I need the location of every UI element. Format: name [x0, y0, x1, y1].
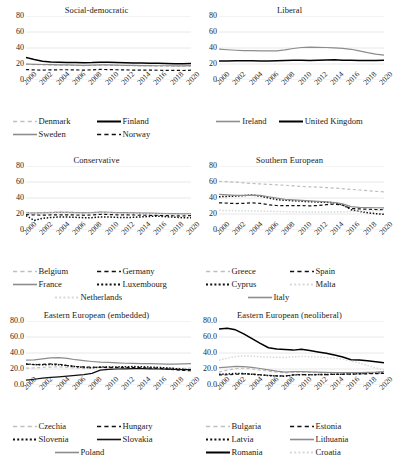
plot-wrap: 020406080 200020022004200620082010201220…: [0, 166, 193, 264]
series-line: [26, 58, 191, 64]
y-tick-label: 20: [16, 210, 24, 218]
legend-swatch-icon: [13, 422, 37, 431]
legend: IrelandUnited Kingdom: [206, 115, 374, 127]
y-tick-label: 60: [209, 28, 217, 36]
legend-label: Ireland: [242, 115, 266, 127]
panel-eastern-european-embedded: Eastern European (embedded) 0.020.040.06…: [0, 305, 193, 471]
legend-label: Croatia: [316, 446, 341, 458]
legend-label: Hungary: [123, 420, 153, 432]
legend-swatch-icon: [290, 267, 314, 276]
legend-swatch-icon: [13, 130, 37, 139]
panel-eastern-european-neoliberal: Eastern European (neoliberal) 0.020.040.…: [193, 305, 386, 471]
legend-item: Lithuania: [290, 433, 374, 445]
y-tick-label: 40: [209, 194, 217, 202]
legend-swatch-icon: [206, 435, 230, 444]
legend-label: Netherlands: [81, 291, 123, 303]
legend-item: Netherlands: [55, 291, 139, 303]
plot-area: [219, 321, 384, 385]
x-axis-labels: 2000200220042006200820102012201420162018…: [26, 230, 191, 264]
chart-svg: [26, 321, 191, 385]
legend-label: France: [39, 278, 62, 290]
x-axis-labels: 2000200220042006200820102012201420162018…: [219, 80, 384, 114]
legend-label: Sweden: [39, 128, 66, 140]
legend-swatch-icon: [97, 130, 121, 139]
y-tick-label: 80: [16, 12, 24, 20]
legend-swatch-icon: [206, 422, 230, 431]
legend-item: Latvia: [206, 433, 290, 445]
plot-wrap: 020406080 200020022004200620082010201220…: [193, 166, 386, 264]
series-line: [26, 358, 191, 364]
panel-social-democratic: Social-democratic 020406080 200020022004…: [0, 0, 193, 150]
series-line: [219, 47, 384, 55]
legend-label: Italy: [274, 291, 290, 303]
legend-item: Cyprus: [206, 278, 290, 290]
legend-swatch-icon: [290, 422, 314, 431]
legend-label: Norway: [123, 128, 151, 140]
legend-swatch-icon: [290, 435, 314, 444]
legend-swatch-icon: [13, 435, 37, 444]
chart-svg: [219, 166, 384, 230]
legend-label: Slovenia: [39, 433, 69, 445]
legend-item: Norway: [97, 128, 181, 140]
y-tick-label: 40: [16, 194, 24, 202]
x-axis-labels: 2000200220042006200820102012201420162018…: [26, 80, 191, 114]
legend-swatch-icon: [97, 280, 121, 289]
series-line: [219, 181, 384, 192]
y-tick-label: 60: [16, 178, 24, 186]
y-tick-label: 80.0: [10, 317, 24, 325]
legend-label: Romania: [232, 446, 263, 458]
legend-swatch-icon: [97, 435, 121, 444]
panel-title: Liberal: [193, 0, 386, 16]
plot-area: [26, 16, 191, 80]
y-tick-label: 60: [209, 178, 217, 186]
legend-item: Hungary: [97, 420, 181, 432]
legend-swatch-icon: [97, 267, 121, 276]
series-line: [219, 366, 384, 372]
y-axis-labels: 020406080: [0, 166, 26, 230]
legend-label: Belgium: [39, 265, 69, 277]
y-axis-labels: 020406080: [193, 166, 219, 230]
legend-label: Estonia: [316, 420, 342, 432]
legend-item: Bulgaria: [206, 420, 290, 432]
y-tick-label: 60.0: [10, 333, 24, 341]
y-tick-label: 80: [16, 162, 24, 170]
legend-item: Ireland: [210, 115, 272, 127]
plot-area: [219, 166, 384, 230]
legend-item: Italy: [248, 291, 332, 303]
panel-title: Eastern European (neoliberal): [193, 305, 386, 321]
legend-item: Sweden: [13, 128, 97, 140]
y-tick-label: 60.0: [203, 333, 217, 341]
legend-label: Czechia: [39, 420, 67, 432]
legend-item: Belgium: [13, 265, 97, 277]
legend-label: Spain: [316, 265, 336, 277]
legend-item: United Kingdom: [273, 115, 369, 127]
legend-swatch-icon: [206, 280, 230, 289]
legend-swatch-icon: [206, 448, 230, 457]
y-tick-label: 80.0: [203, 317, 217, 325]
chart-svg: [219, 16, 384, 80]
panel-southern-european: Southern European 020406080 200020022004…: [193, 150, 386, 305]
legend-item: Finland: [97, 115, 181, 127]
y-tick-label: 80: [209, 162, 217, 170]
series-line: [26, 69, 191, 70]
legend-swatch-icon: [248, 293, 272, 302]
legend-swatch-icon: [290, 448, 314, 457]
y-tick-label: 20.0: [203, 365, 217, 373]
legend-label: Lithuania: [316, 433, 349, 445]
legend-label: Finland: [123, 115, 149, 127]
legend: BelgiumGermanyFranceLuxembourgNetherland…: [13, 265, 181, 303]
legend-swatch-icon: [97, 422, 121, 431]
legend-item: Luxembourg: [97, 278, 181, 290]
series-line: [219, 210, 384, 212]
y-axis-labels: 0.020.040.060.080.0: [0, 321, 26, 385]
plot-area: [219, 16, 384, 80]
legend-item: Greece: [206, 265, 290, 277]
x-axis-labels: 2000200220042006200820102012201420162018…: [219, 385, 384, 419]
legend-swatch-icon: [206, 267, 230, 276]
chart-svg: [26, 16, 191, 80]
legend: BulgariaEstoniaLatviaLithuaniaRomaniaCro…: [206, 420, 374, 458]
legend-item: Slovenia: [13, 433, 97, 445]
plot-wrap: 0.020.040.060.080.0 20002002200420062008…: [193, 321, 386, 419]
legend-item: France: [13, 278, 97, 290]
y-tick-label: 40: [209, 44, 217, 52]
